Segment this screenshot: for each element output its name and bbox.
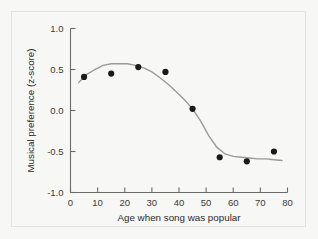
y-tick-label: -1.0	[47, 187, 63, 198]
figure-container: 01020304050607080 1.00.50.0-0.5-1.0 Age …	[0, 0, 318, 239]
y-tick-label: 1.0	[50, 23, 63, 34]
x-tick-label: 20	[119, 197, 130, 208]
x-tick-label: 10	[92, 197, 103, 208]
y-tick-label: 0.0	[50, 105, 63, 116]
data-point	[162, 69, 168, 75]
x-tick-label: 30	[147, 197, 158, 208]
axes-group	[71, 29, 288, 193]
x-tick-label: 50	[201, 197, 212, 208]
data-point	[271, 148, 277, 154]
data-point	[244, 158, 250, 164]
x-tick-label: 70	[255, 197, 266, 208]
y-tick-label: -0.5	[47, 146, 63, 157]
data-point	[135, 64, 141, 70]
y-axis-ticks	[71, 29, 76, 193]
data-points-group	[81, 64, 277, 164]
y-tick-labels: 1.00.50.0-0.5-1.0	[47, 23, 63, 198]
fitted-trend-curve	[79, 64, 282, 161]
y-tick-label: 0.5	[50, 64, 63, 75]
data-point	[108, 71, 114, 77]
data-point	[189, 106, 195, 112]
x-tick-label: 0	[68, 197, 73, 208]
y-axis-title: Musical preference (z-score)	[25, 48, 36, 172]
x-axis-title: Age when song was popular	[117, 212, 241, 223]
x-tick-label: 80	[282, 197, 293, 208]
data-point	[81, 74, 87, 80]
scatter-plot: 01020304050607080 1.00.50.0-0.5-1.0 Age …	[0, 0, 318, 239]
x-axis-ticks	[71, 188, 288, 193]
x-tick-label: 40	[174, 197, 185, 208]
data-point	[217, 154, 223, 160]
x-tick-labels: 01020304050607080	[68, 197, 293, 208]
x-tick-label: 60	[228, 197, 239, 208]
